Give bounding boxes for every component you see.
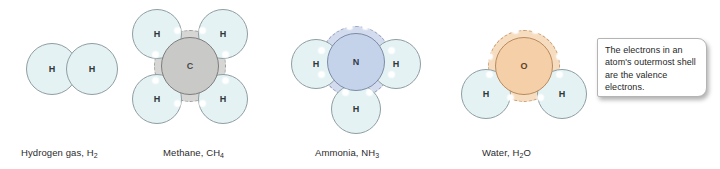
electron-dot bbox=[363, 24, 368, 29]
caption-formula-base: NH bbox=[361, 147, 375, 158]
electron-dot bbox=[557, 54, 562, 59]
electron-dot bbox=[557, 72, 562, 77]
caption-formula-subscript: 3 bbox=[375, 152, 379, 159]
atom-hydrogen-right: H bbox=[66, 43, 118, 95]
atom-symbol: H bbox=[220, 30, 227, 39]
caption-formula-base: CH bbox=[206, 147, 220, 158]
callout-box: The electrons in an atom's outermost she… bbox=[597, 38, 707, 97]
electron-dot bbox=[343, 90, 348, 95]
atom-symbol: H bbox=[353, 105, 360, 114]
caption-molecule-name: Methane, bbox=[163, 147, 203, 158]
electron-dot bbox=[175, 28, 180, 33]
electron-dot bbox=[153, 78, 158, 83]
atom-symbol: H bbox=[89, 65, 96, 74]
caption-water: Water, H2O bbox=[482, 148, 531, 158]
atom-symbol: H bbox=[154, 30, 161, 39]
caption-molecule-name: Ammonia, bbox=[315, 147, 359, 158]
electron-dot bbox=[200, 28, 205, 33]
electron-dot bbox=[487, 72, 492, 77]
electron-dot bbox=[153, 52, 158, 57]
atom-hydrogen-bottom: H bbox=[331, 84, 381, 134]
electron-dot bbox=[175, 101, 180, 106]
caption-formula-tail: O bbox=[523, 147, 531, 158]
caption-methane: Methane, CH4 bbox=[163, 148, 224, 158]
caption-formula-base: H bbox=[87, 147, 94, 158]
molecule-water: H H O bbox=[452, 0, 597, 145]
caption-formula-subscript: 2 bbox=[94, 152, 98, 159]
atom-symbol: H bbox=[559, 90, 566, 99]
atom-symbol: O bbox=[520, 62, 527, 71]
electron-dot bbox=[319, 48, 324, 53]
electron-dot bbox=[538, 95, 543, 100]
atom-symbol: H bbox=[154, 95, 161, 104]
atom-symbol: H bbox=[313, 60, 320, 69]
electron-dot bbox=[487, 54, 492, 59]
atom-nitrogen: N bbox=[327, 33, 385, 91]
electron-dot bbox=[347, 24, 352, 29]
atom-carbon: C bbox=[161, 37, 219, 95]
atom-symbol: H bbox=[393, 60, 400, 69]
callout-text: The electrons in an atom's outermost she… bbox=[605, 44, 699, 94]
diagram-canvas: H H Hydrogen gas, H2 H H H H C bbox=[0, 0, 720, 169]
atom-symbol: H bbox=[483, 90, 490, 99]
caption-molecule-name: Water, bbox=[482, 147, 510, 158]
electron-dot bbox=[508, 95, 513, 100]
electron-dot bbox=[223, 78, 228, 83]
electron-dot bbox=[200, 101, 205, 106]
caption-hydrogen-gas: Hydrogen gas, H2 bbox=[21, 148, 98, 158]
atom-symbol: H bbox=[49, 65, 56, 74]
molecule-methane: H H H H C bbox=[130, 0, 270, 140]
electron-dot bbox=[513, 28, 518, 33]
electron-dot bbox=[319, 72, 324, 77]
caption-molecule-name: Hydrogen gas, bbox=[21, 147, 84, 158]
electron-dot bbox=[389, 48, 394, 53]
electron-dot bbox=[367, 90, 372, 95]
caption-ammonia: Ammonia, NH3 bbox=[315, 148, 379, 158]
molecule-hydrogen-gas: H H bbox=[0, 0, 140, 140]
electron-dot bbox=[533, 28, 538, 33]
molecule-ammonia: H H H N bbox=[285, 0, 430, 145]
caption-formula-subscript: 4 bbox=[220, 152, 224, 159]
electron-dot bbox=[389, 72, 394, 77]
atom-oxygen: O bbox=[495, 37, 553, 95]
caption-formula-subscript: 2 bbox=[519, 152, 523, 159]
electron-dot bbox=[223, 52, 228, 57]
atom-symbol: C bbox=[187, 62, 194, 71]
atom-symbol: H bbox=[220, 95, 227, 104]
atom-symbol: N bbox=[353, 58, 360, 67]
